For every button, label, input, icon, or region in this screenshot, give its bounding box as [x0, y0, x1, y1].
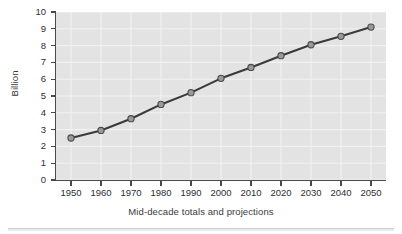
- x-tick-label: 2050: [351, 188, 391, 198]
- x-tick-mark: [340, 181, 341, 186]
- y-tick-label: 6: [22, 74, 46, 84]
- y-axis-title: Billion: [9, 54, 20, 114]
- x-tick-mark: [190, 181, 191, 186]
- y-tick-mark: [51, 62, 56, 63]
- x-tick-mark: [250, 181, 251, 186]
- data-point-marker: [338, 33, 344, 39]
- x-tick-mark: [370, 181, 371, 186]
- y-tick-mark: [51, 179, 56, 180]
- x-tick-mark: [130, 181, 131, 186]
- data-point-marker: [98, 127, 104, 133]
- y-tick-mark: [51, 11, 56, 12]
- chart-figure: Billion 012345678910 1950196019701980199…: [0, 0, 402, 234]
- data-point-marker: [68, 135, 74, 141]
- y-tick-mark: [51, 95, 56, 96]
- y-tick-label: 1: [22, 158, 46, 168]
- data-point-marker: [158, 101, 164, 107]
- y-tick-mark: [51, 79, 56, 80]
- chart-plot-svg: [56, 12, 386, 180]
- data-point-marker: [368, 24, 374, 30]
- y-tick-mark: [51, 146, 56, 147]
- y-tick-mark: [51, 163, 56, 164]
- y-tick-label: 8: [22, 41, 46, 51]
- y-tick-label: 10: [22, 7, 46, 17]
- y-tick-mark: [51, 28, 56, 29]
- y-tick-mark: [51, 129, 56, 130]
- x-tick-mark: [70, 181, 71, 186]
- y-tick-label: 0: [22, 175, 46, 185]
- x-tick-mark: [280, 181, 281, 186]
- y-tick-label: 3: [22, 125, 46, 135]
- x-tick-mark: [100, 181, 101, 186]
- data-point-marker: [188, 90, 194, 96]
- data-point-marker: [218, 75, 224, 81]
- x-tick-mark: [160, 181, 161, 186]
- data-point-marker: [308, 42, 314, 48]
- y-tick-label: 2: [22, 141, 46, 151]
- plot-area: [56, 12, 386, 180]
- y-tick-label: 4: [22, 108, 46, 118]
- y-tick-label: 5: [22, 91, 46, 101]
- x-tick-mark: [220, 181, 221, 186]
- y-tick-label: 7: [22, 57, 46, 67]
- data-point-marker: [248, 64, 254, 70]
- bottom-divider-shadow: [8, 229, 394, 231]
- x-tick-mark: [310, 181, 311, 186]
- data-point-marker: [278, 53, 284, 59]
- x-axis-caption: Mid-decade totals and projections: [0, 206, 402, 217]
- y-tick-mark: [51, 45, 56, 46]
- y-tick-mark: [51, 112, 56, 113]
- y-tick-label: 9: [22, 24, 46, 34]
- data-point-marker: [128, 116, 134, 122]
